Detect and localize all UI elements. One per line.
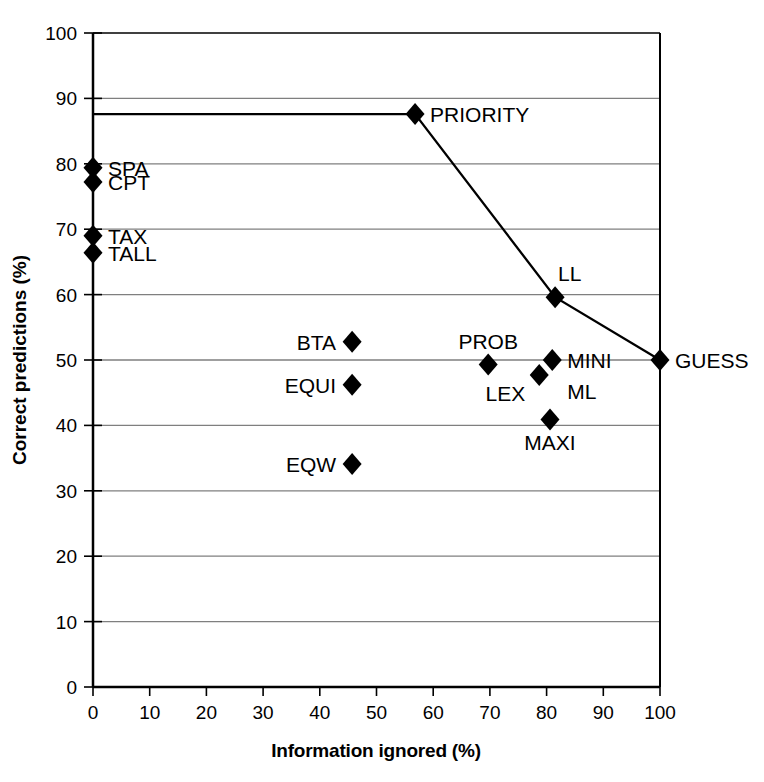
data-point-marker-guess	[651, 349, 670, 371]
y-tick-label-50: 50	[56, 350, 77, 371]
x-tick-label-10: 10	[139, 702, 160, 723]
data-point-labels-group: SPACPTTAXTALLPRIORITYLLGUESSBTAEQUIEQWPR…	[108, 103, 749, 476]
data-point-label-ml: ML	[567, 380, 596, 403]
x-tick-label-40: 40	[309, 702, 330, 723]
x-tick-label-60: 60	[423, 702, 444, 723]
x-tick-label-0: 0	[88, 702, 99, 723]
y-tick-label-40: 40	[56, 415, 77, 436]
data-point-marker-maxi	[541, 409, 560, 431]
chart-container: 0102030405060708090100 01020304050607080…	[0, 0, 764, 782]
x-tick-label-30: 30	[253, 702, 274, 723]
data-point-label-ll: LL	[558, 262, 581, 285]
scatter-plot-svg: 0102030405060708090100 01020304050607080…	[0, 0, 764, 782]
y-tick-label-60: 60	[56, 285, 77, 306]
x-tick-label-50: 50	[366, 702, 387, 723]
x-tick-label-80: 80	[536, 702, 557, 723]
data-point-label-eqw: EQW	[286, 453, 336, 476]
data-point-marker-equi	[343, 374, 362, 396]
data-point-label-mini: MINI	[567, 349, 611, 372]
data-point-marker-eqw	[343, 453, 362, 475]
y-tick-label-70: 70	[56, 219, 77, 240]
frontier-line-group	[93, 114, 660, 360]
data-point-label-equi: EQUI	[285, 374, 336, 397]
x-tick-label-20: 20	[196, 702, 217, 723]
x-tick-label-90: 90	[593, 702, 614, 723]
data-point-label-tall: TALL	[108, 242, 157, 265]
data-point-label-guess: GUESS	[675, 349, 749, 372]
y-tick-label-100: 100	[45, 23, 77, 44]
data-point-label-maxi: MAXI	[524, 431, 575, 454]
y-tick-label-90: 90	[56, 88, 77, 109]
data-point-label-lex: LEX	[486, 382, 526, 405]
data-point-marker-cpt	[84, 171, 103, 193]
data-point-marker-mini	[543, 349, 562, 371]
data-point-marker-bta	[343, 331, 362, 353]
data-point-label-prob: PROB	[458, 330, 518, 353]
data-markers-group	[84, 103, 670, 475]
y-tick-label-30: 30	[56, 481, 77, 502]
x-axis-title: Information ignored (%)	[271, 740, 481, 761]
data-point-label-cpt: CPT	[108, 171, 150, 194]
x-tick-label-70: 70	[479, 702, 500, 723]
data-point-label-priority: PRIORITY	[430, 103, 529, 126]
y-tick-label-0: 0	[66, 677, 77, 698]
y-tick-label-20: 20	[56, 546, 77, 567]
x-axis-ticks-group: 0102030405060708090100	[88, 687, 676, 723]
data-point-marker-prob	[479, 354, 498, 376]
data-point-label-bta: BTA	[297, 331, 336, 354]
y-tick-label-80: 80	[56, 154, 77, 175]
data-point-marker-tall	[84, 242, 103, 264]
frontier-polyline	[93, 114, 660, 360]
x-tick-label-100: 100	[644, 702, 676, 723]
y-tick-label-10: 10	[56, 612, 77, 633]
data-point-marker-ml	[530, 364, 549, 386]
